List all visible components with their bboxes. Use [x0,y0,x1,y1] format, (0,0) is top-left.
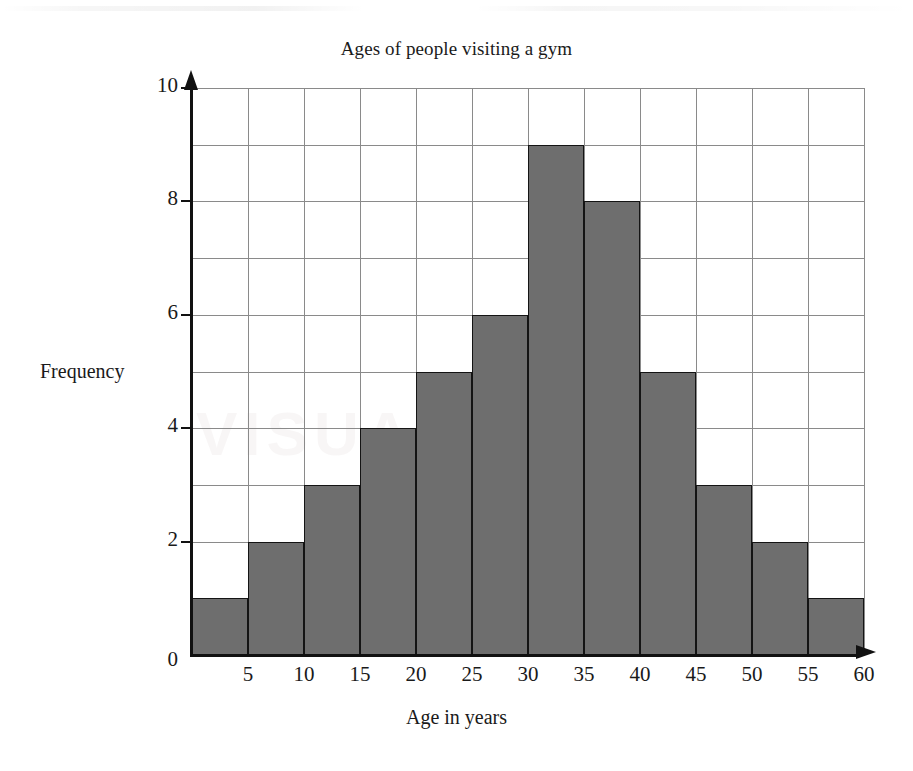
x-axis-tick-label: 20 [391,662,441,687]
y-axis-tick-mark [181,314,192,316]
x-axis-label: Age in years [0,706,913,729]
x-axis-tick-label: 5 [223,662,273,687]
histogram-bar [752,542,808,655]
y-axis-label: Frequency [40,360,124,383]
bar-series [192,88,864,655]
histogram-bar [416,372,472,656]
x-axis-tick-label: 30 [503,662,553,687]
x-axis-tick-label: 60 [839,662,889,687]
histogram-figure: Ages of people visiting a gym VISUAL 024… [0,0,913,771]
histogram-bar [528,145,584,655]
histogram-bar [584,201,640,655]
y-axis-line [190,86,193,657]
x-axis-tick-label: 40 [615,662,665,687]
gridline-vertical [864,88,865,655]
chart-title: Ages of people visiting a gym [0,38,913,60]
x-axis-tick-label: 45 [671,662,721,687]
histogram-bar [696,485,752,655]
x-axis-tick-label: 15 [335,662,385,687]
y-axis-tick-label: 8 [138,186,178,211]
x-axis-tick-label: 55 [783,662,833,687]
histogram-bar [640,372,696,656]
y-axis-tick-label: 0 [142,647,178,672]
x-axis-tick-label: 35 [559,662,609,687]
x-axis-tick-label: 10 [279,662,329,687]
scan-artifact-band [0,6,913,11]
x-axis-tick-label: 50 [727,662,777,687]
y-axis-tick-label: 4 [138,413,178,438]
y-axis-tick-mark [181,200,192,202]
x-axis-tick-label: 25 [447,662,497,687]
y-axis-tick-label: 6 [138,300,178,325]
y-axis-tick-label: 2 [138,527,178,552]
x-axis-arrowhead [856,645,876,659]
histogram-bar [304,485,360,655]
histogram-bar [472,315,528,655]
x-axis-line [190,654,860,657]
histogram-bar [360,428,416,655]
histogram-bar [192,598,248,655]
y-axis-tick-mark [181,427,192,429]
plot-area [192,88,864,655]
y-axis-tick-label: 10 [138,73,178,98]
y-axis-tick-mark [181,87,192,89]
y-axis-tick-mark [181,541,192,543]
histogram-bar [248,542,304,655]
